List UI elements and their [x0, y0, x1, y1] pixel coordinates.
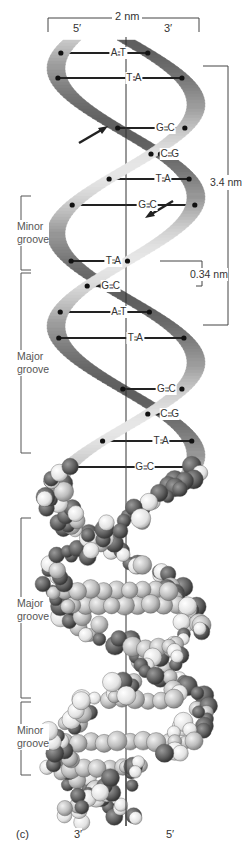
phosphate-dot — [187, 176, 192, 181]
ribbon-segment-strand-2 — [47, 232, 65, 236]
base-left: G — [138, 199, 146, 210]
atom-sphere — [113, 523, 128, 538]
atom-sphere — [129, 811, 142, 824]
base-right: C — [167, 122, 174, 133]
phosphate-dot — [120, 386, 125, 391]
base-right: C — [150, 199, 157, 210]
base-right: C — [168, 383, 175, 394]
phosphate-dot — [182, 125, 187, 130]
rise-label: 0.34 nm — [190, 268, 228, 281]
phosphate-dot — [100, 438, 105, 443]
phosphate-dot — [125, 258, 130, 263]
strand-end-bottom-left: 3′ — [74, 828, 82, 841]
base-right: G — [171, 148, 179, 159]
base-right: A — [136, 332, 143, 343]
base-left: A — [111, 306, 118, 317]
base-pair-label: C⁞⁞⁞G — [159, 408, 180, 420]
base-pair-label: C⁞⁞⁞G — [159, 148, 180, 160]
atom-sphere — [102, 672, 121, 691]
base-right: A — [164, 173, 171, 184]
atom-sphere — [171, 650, 184, 663]
minor-groove-label-spacefill: Minor groove — [17, 724, 49, 750]
phosphate-dot — [85, 283, 90, 288]
atom-sphere — [129, 766, 141, 778]
phosphate-dot — [147, 309, 152, 314]
strand-direction-arrow-up — [79, 126, 108, 143]
atom-sphere — [83, 542, 99, 558]
atom-sphere — [99, 515, 115, 531]
base-right: G — [171, 408, 179, 419]
base-pair-label: T⁞⁞A — [153, 435, 170, 447]
dna-double-helix-figure: 2 nm 5′ 3′ 3.4 nm 0.34 nm Minor groove M… — [0, 0, 252, 865]
base-right: T — [120, 306, 126, 317]
phosphate-dot — [58, 50, 63, 55]
base-right: C — [113, 280, 120, 291]
phosphate-dot — [56, 335, 61, 340]
atom-sphere — [35, 576, 51, 592]
base-pair-label: G⁞⁞⁞C — [100, 280, 121, 292]
phosphate-dot — [58, 309, 63, 314]
phosphate-dot — [55, 75, 60, 80]
strand-end-top-left: 5′ — [73, 22, 81, 35]
pitch-label: 3.4 nm — [210, 175, 242, 190]
atom-sphere — [61, 599, 75, 613]
atom-sphere — [79, 628, 93, 642]
atom-sphere — [101, 769, 119, 787]
atom-sphere — [178, 597, 197, 616]
atom-sphere — [172, 745, 188, 761]
base-right: A — [162, 435, 169, 446]
atom-sphere — [93, 633, 106, 646]
phosphate-dot — [107, 176, 112, 181]
ribbon-segment-strand-1 — [47, 322, 65, 326]
atom-sphere — [75, 800, 89, 814]
base-pair-label: T⁞⁞A — [125, 72, 142, 84]
major-groove-label-ribbon: Major groove — [17, 350, 49, 376]
atom-sphere — [173, 482, 188, 497]
atom-sphere — [126, 780, 138, 792]
atom-sphere — [91, 616, 108, 633]
atom-sphere — [68, 506, 84, 522]
atom-sphere — [57, 800, 72, 815]
atom-sphere — [81, 528, 95, 542]
atom-sphere — [49, 562, 66, 579]
base-left: G — [135, 461, 143, 472]
atom-sphere — [107, 731, 127, 751]
atom-sphere — [117, 686, 136, 705]
base-left: G — [157, 383, 165, 394]
phosphate-dot — [69, 258, 74, 263]
phosphate-dot — [115, 125, 120, 130]
atom-sphere — [133, 556, 152, 575]
atom-sphere — [131, 508, 151, 528]
base-right: T — [120, 47, 126, 58]
atom-sphere — [193, 622, 206, 635]
phosphate-dot — [192, 202, 197, 207]
atom-sphere — [173, 613, 190, 630]
base-left: G — [156, 122, 164, 133]
base-right: A — [114, 255, 121, 266]
ribbon-segment-strand-1 — [47, 64, 65, 68]
panel-label: (c) — [16, 828, 29, 841]
atom-sphere — [155, 744, 173, 762]
atom-sphere — [159, 582, 178, 601]
atom-sphere — [146, 667, 164, 685]
atom-sphere — [164, 689, 183, 708]
phosphate-dot — [148, 151, 153, 156]
atom-sphere — [192, 706, 205, 719]
atom-sphere — [121, 582, 137, 598]
atom-sphere — [72, 692, 90, 710]
strand-end-top-right: 3′ — [164, 22, 172, 35]
phosphate-dot — [179, 386, 184, 391]
base-pair-label: G⁞⁞⁞C — [155, 122, 176, 134]
base-pair-label: G⁞⁞⁞C — [137, 199, 158, 211]
strand-end-bottom-right: 5′ — [166, 828, 174, 841]
base-pair-label: A⁞⁞T — [110, 306, 127, 318]
atom-sphere — [103, 597, 119, 613]
width-label: 2 nm — [112, 10, 142, 23]
base-pair-label: G⁞⁞⁞C — [134, 461, 155, 473]
atom-sphere — [185, 732, 203, 750]
atom-sphere — [191, 687, 204, 700]
phosphate-dot — [145, 50, 150, 55]
base-pair-label: G⁞⁞⁞C — [156, 383, 177, 395]
base-right: A — [135, 72, 142, 83]
base-pair-label: T⁞⁞A — [154, 173, 171, 185]
